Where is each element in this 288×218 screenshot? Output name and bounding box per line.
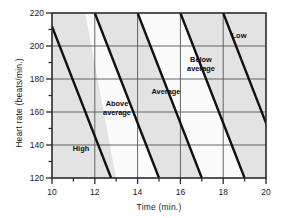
- x-tick-20: 20: [254, 187, 278, 197]
- y-axis-ticks: [46, 13, 52, 178]
- region-label-low: Low: [224, 32, 254, 41]
- x-tick-14: 14: [126, 187, 150, 197]
- x-axis-ticks: [52, 178, 266, 184]
- region-label-above-average: Above average: [98, 100, 136, 117]
- region-label-average: Average: [146, 88, 186, 97]
- y-tick-220: 220: [18, 8, 44, 18]
- x-tick-12: 12: [83, 187, 107, 197]
- y-axis-title: Heart rate (beats/min.): [14, 28, 24, 178]
- x-axis-title: Time (min.): [52, 202, 266, 212]
- x-tick-18: 18: [211, 187, 235, 197]
- region-label-below-average: Below average: [181, 56, 221, 73]
- heart-rate-fitness-nomogram: 220 200 180 160 140 120 10 12 14 16 18 2…: [0, 0, 288, 218]
- x-tick-10: 10: [40, 187, 64, 197]
- x-tick-16: 16: [168, 187, 192, 197]
- region-label-high: High: [61, 145, 101, 154]
